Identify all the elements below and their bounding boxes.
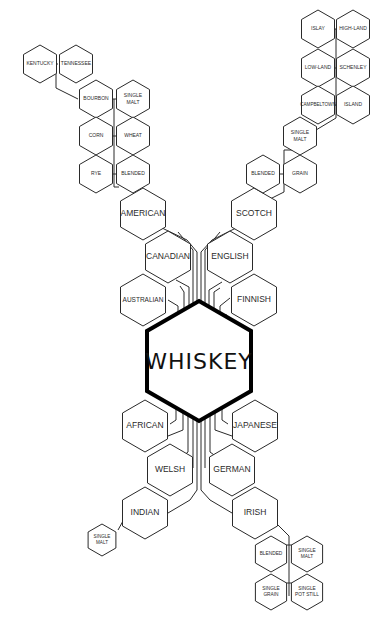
node-label: MALT <box>96 540 108 545</box>
whiskey-diagram: AMERICANCANADIANAUSTRALIANSCOTCHENGLISHF… <box>0 0 390 631</box>
node-label: FINNISH <box>237 294 271 304</box>
node-label: SCOTCH <box>236 208 272 218</box>
node-us-single-malt: SINGLEMALT <box>117 80 150 118</box>
node-welsh: WELSH <box>148 444 193 496</box>
node-sc-blended: BLENDED <box>247 155 280 193</box>
node-in-single-malt: SINGLEMALT <box>88 524 116 556</box>
node-wheat: WHEAT <box>117 117 150 155</box>
node-finnish: FINNISH <box>232 274 277 326</box>
connector-line <box>209 282 222 308</box>
center-node: WHISKEY <box>145 301 253 421</box>
node-label: AFRICAN <box>126 420 163 430</box>
node-label: IRISH <box>244 507 267 517</box>
node-kentucky: KENTUCKY <box>24 45 57 83</box>
node-label: CORN <box>89 132 104 138</box>
node-label: SCHENLEY <box>340 64 368 70</box>
node-highland: HIGH-LAND <box>337 10 370 48</box>
node-label: GERMAN <box>213 464 250 474</box>
node-african: AFRICAN <box>123 400 168 452</box>
node-label: RYE <box>91 170 102 176</box>
node-label: CANADIAN <box>146 251 190 261</box>
node-islay: ISLAY <box>302 10 335 48</box>
node-label: JAPANESE <box>233 420 277 430</box>
node-label: SINGLE <box>298 586 316 591</box>
node-american: AMERICAN <box>121 188 166 240</box>
node-ir-single-malt: SINGLEMALT <box>291 536 322 572</box>
node-label: CAMPBELTOWN <box>300 102 336 107</box>
node-label: BLENDED <box>121 170 145 176</box>
node-label: BLENDED <box>251 170 275 176</box>
node-campbeltown: CAMPBELTOWN <box>300 86 336 124</box>
node-japanese: JAPANESE <box>233 400 278 452</box>
node-label: MALT <box>301 554 314 559</box>
node-bourbon: BOURBON <box>80 80 113 118</box>
node-label: SINGLE <box>94 534 111 539</box>
node-label: BLENDED <box>260 551 283 556</box>
connector-line <box>215 410 232 436</box>
whiskey-title: WHISKEY <box>145 349 253 374</box>
node-label: GRAIN <box>263 592 279 597</box>
node-schenley: SCHENLEY <box>337 49 370 87</box>
node-german: GERMAN <box>210 444 255 496</box>
node-ir-blended: BLENDED <box>255 536 286 572</box>
node-scotch: SCOTCH <box>232 188 277 240</box>
connector-line <box>220 298 230 314</box>
node-us-blended: BLENDED <box>117 155 150 193</box>
node-label: AMERICAN <box>121 208 166 218</box>
node-label: SINGLE <box>124 92 143 98</box>
node-label: WHEAT <box>124 132 142 138</box>
node-label: POT STILL <box>295 592 319 597</box>
node-label: LOW-LAND <box>305 64 332 70</box>
node-label: GRAIN <box>292 170 308 176</box>
node-label: ISLAY <box>311 25 325 31</box>
node-sc-single-malt: SINGLEMALT <box>284 117 317 155</box>
node-label: ENGLISH <box>211 251 248 261</box>
node-label: MALT <box>127 99 140 105</box>
node-label: ISLAND <box>344 101 362 107</box>
node-irish: IRISH <box>233 487 278 539</box>
node-single-pot-still: SINGLEPOT STILL <box>291 574 322 610</box>
node-label: TENNESSEE <box>61 60 92 66</box>
node-island: ISLAND <box>337 86 370 124</box>
node-label: AUSTRALIAN <box>123 296 164 303</box>
node-label: KENTUCKY <box>26 60 54 66</box>
node-label: HIGH-LAND <box>339 25 367 31</box>
node-label: SINGLE <box>298 548 316 553</box>
node-tennessee: TENNESSEE <box>60 45 93 83</box>
node-australian: AUSTRALIAN <box>121 274 166 326</box>
node-label: SINGLE <box>262 586 280 591</box>
node-label: SINGLE <box>291 129 310 135</box>
node-label: INDIAN <box>131 507 160 517</box>
node-single-grain: SINGLEGRAIN <box>255 574 286 610</box>
node-lowland: LOW-LAND <box>302 49 335 87</box>
node-indian: INDIAN <box>123 487 168 539</box>
node-label: WELSH <box>155 464 185 474</box>
node-corn: CORN <box>80 117 113 155</box>
node-label: MALT <box>294 136 307 142</box>
node-grain: GRAIN <box>284 155 317 193</box>
connector-line <box>214 288 220 311</box>
node-label: BOURBON <box>83 95 109 101</box>
node-rye: RYE <box>80 155 113 193</box>
